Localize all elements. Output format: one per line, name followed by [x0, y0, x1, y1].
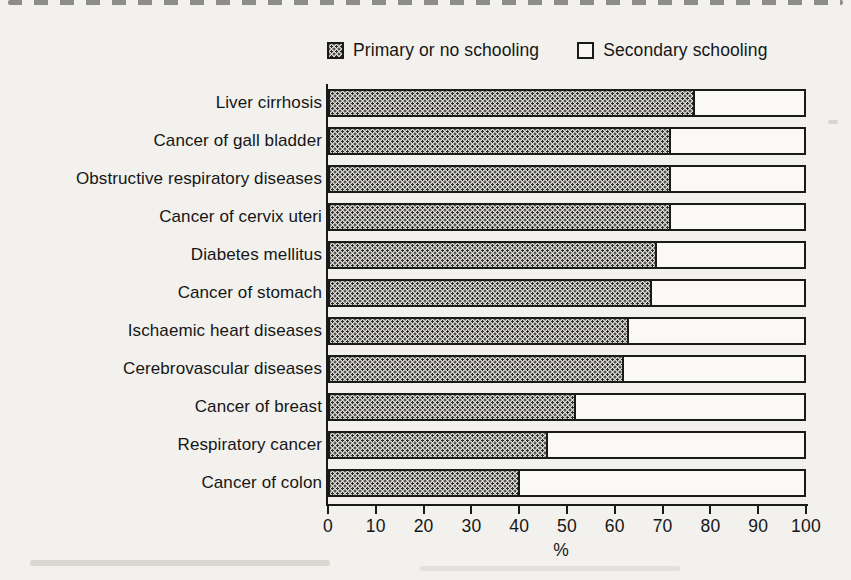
- category-label: Cancer of colon: [0, 474, 328, 493]
- x-axis-tick: [757, 504, 759, 514]
- primary-segment: [330, 471, 520, 495]
- category-label: Diabetes mellitus: [0, 246, 328, 265]
- legend: Primary or no schooling Secondary school…: [327, 40, 768, 61]
- x-axis-tick: [614, 504, 616, 514]
- primary-segment: [330, 395, 576, 419]
- scan-artifact-bottom: [30, 560, 330, 566]
- x-axis-tick: [375, 504, 377, 514]
- bar-row: Obstructive respiratory diseases: [0, 160, 851, 198]
- bar-row: Diabetes mellitus: [0, 236, 851, 274]
- category-label: Cancer of breast: [0, 398, 328, 417]
- y-axis-line: [326, 84, 328, 506]
- legend-label-secondary: Secondary schooling: [603, 40, 767, 61]
- x-axis-tick-label: 100: [791, 516, 821, 537]
- x-axis-tick-label: 50: [557, 516, 577, 537]
- bar-row: Cancer of stomach: [0, 274, 851, 312]
- primary-segment: [330, 281, 652, 305]
- bar-row: Cancer of gall bladder: [0, 122, 851, 160]
- x-axis-tick: [709, 504, 711, 514]
- primary-segment: [330, 129, 671, 153]
- primary-segment: [330, 243, 657, 267]
- stacked-bar: [328, 165, 806, 193]
- category-label: Respiratory cancer: [0, 436, 328, 455]
- stacked-bar: [328, 203, 806, 231]
- x-axis-tick-label: 90: [748, 516, 768, 537]
- bar-row: Cerebrovascular diseases: [0, 350, 851, 388]
- bars-area: Liver cirrhosisCancer of gall bladderObs…: [0, 84, 851, 502]
- x-axis-tick: [566, 504, 568, 514]
- primary-segment: [330, 433, 548, 457]
- stacked-bar: [328, 127, 806, 155]
- stacked-bar: [328, 355, 806, 383]
- bar-row: Cancer of breast: [0, 388, 851, 426]
- x-axis-tick-label: 30: [461, 516, 481, 537]
- category-label: Cancer of gall bladder: [0, 132, 328, 151]
- x-axis-tick-label: 0: [323, 516, 333, 537]
- primary-segment: [330, 319, 629, 343]
- stacked-bar: [328, 469, 806, 497]
- stacked-bar: [328, 89, 806, 117]
- x-axis-tick-label: 20: [414, 516, 434, 537]
- bar-row: Liver cirrhosis: [0, 84, 851, 122]
- scan-artifact-bottom: [420, 566, 680, 571]
- x-axis-label: %: [553, 540, 569, 561]
- stacked-bar: [328, 393, 806, 421]
- bar-row: Cancer of colon: [0, 464, 851, 502]
- category-label: Cancer of stomach: [0, 284, 328, 303]
- stacked-bar: [328, 279, 806, 307]
- primary-segment: [330, 357, 624, 381]
- chart-page: Primary or no schooling Secondary school…: [0, 0, 851, 580]
- x-axis-tick-label: 70: [653, 516, 673, 537]
- category-label: Liver cirrhosis: [0, 94, 328, 113]
- x-axis-tick-label: 80: [700, 516, 720, 537]
- x-axis-tick: [470, 504, 472, 514]
- category-label: Cancer of cervix uteri: [0, 208, 328, 227]
- x-axis-tick: [805, 504, 807, 514]
- category-label: Ischaemic heart diseases: [0, 322, 328, 341]
- bar-row: Ischaemic heart diseases: [0, 312, 851, 350]
- bar-row: Cancer of cervix uteri: [0, 198, 851, 236]
- stacked-bar: [328, 317, 806, 345]
- x-axis-tick-label: 40: [509, 516, 529, 537]
- legend-item-primary: Primary or no schooling: [327, 40, 539, 61]
- category-label: Obstructive respiratory diseases: [0, 170, 328, 189]
- bar-row: Respiratory cancer: [0, 426, 851, 464]
- x-axis-tick-label: 60: [605, 516, 625, 537]
- category-label: Cerebrovascular diseases: [0, 360, 328, 379]
- stacked-bar: [328, 241, 806, 269]
- secondary-white-swatch-icon: [577, 42, 594, 59]
- legend-label-primary: Primary or no schooling: [353, 40, 539, 61]
- scan-artifact-top: [8, 0, 843, 5]
- primary-segment: [330, 167, 671, 191]
- legend-item-secondary: Secondary schooling: [577, 40, 767, 61]
- x-axis-tick-label: 10: [366, 516, 386, 537]
- primary-segment: [330, 205, 671, 229]
- x-axis-tick: [327, 504, 329, 514]
- stacked-bar: [328, 431, 806, 459]
- x-axis-tick: [423, 504, 425, 514]
- x-axis-tick: [662, 504, 664, 514]
- primary-pattern-swatch-icon: [327, 42, 344, 59]
- x-axis-tick: [518, 504, 520, 514]
- primary-segment: [330, 91, 695, 115]
